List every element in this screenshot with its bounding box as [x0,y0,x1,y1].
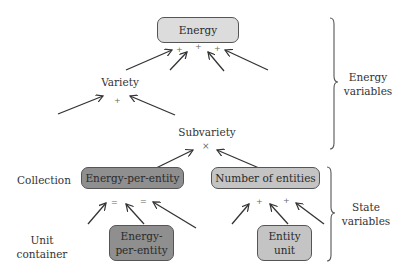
energy-plus-operator-2: + [195,43,202,51]
variety-plus-operator: + [114,97,121,105]
brace-label-energy-variables: Energy variables [340,70,396,98]
unit-container-line1: Unit [14,233,70,247]
variety-node: Variety [95,75,145,89]
brace-energy-variables [330,18,338,149]
entity-unit-line1: Entity [268,229,300,243]
energy-plus-operator-1: + [176,46,183,54]
collection-energy-per-entity-node: Energy-per-entity [81,167,184,189]
unit-container-line2: container [14,247,70,261]
state-variables-line1: State [338,200,394,214]
number-of-entities-label: Number of entities [215,171,315,185]
unit-energy-per-entity-line1: Energy- [121,229,163,243]
entity-unit-line2: unit [274,243,295,257]
collection-energy-per-entity-label: Energy-per-entity [85,171,179,185]
energy-variables-line2: variables [340,84,396,98]
number-of-entities-node: Number of entities [211,167,320,189]
unit-energy-per-entity-line2: per-entity [115,243,167,257]
row-label-collection: Collection [16,173,72,187]
row-label-unit-container: Unit container [14,233,70,261]
energy-plus-operator-3: + [214,45,221,53]
subvariety-node: Subvariety [175,125,239,139]
brace-label-state-variables: State variables [338,200,394,228]
collection-equals-operator-2: = [140,198,147,206]
energy-variables-line1: Energy [340,70,396,84]
energy-node-label: Energy [179,23,217,37]
brace-state-variables [327,167,335,261]
collection-equals-operator-1: = [111,199,118,207]
subvariety-times-operator: × [202,142,210,150]
unit-energy-per-entity-node: Energy- per-entity [109,225,174,261]
entities-plus-operator-2: + [283,197,290,205]
energy-node: Energy [157,17,239,43]
state-variables-line2: variables [338,214,394,228]
entity-unit-node: Entity unit [257,225,312,261]
entities-plus-operator-1: + [256,198,263,206]
